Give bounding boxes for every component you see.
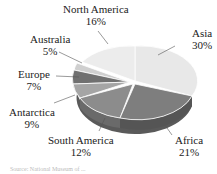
label-percent: 12% xyxy=(48,146,114,158)
label-percent: 16% xyxy=(63,15,129,27)
source-note: Source: National Museum of ... xyxy=(10,166,86,172)
label-percent: 9% xyxy=(9,118,55,130)
label-percent: 7% xyxy=(18,80,50,92)
label-percent: 21% xyxy=(175,146,203,158)
label-percent: 5% xyxy=(30,45,70,57)
label-north-america: North America 16% xyxy=(63,3,129,27)
label-australia: Australia 5% xyxy=(30,33,70,57)
label-south-america: South America 12% xyxy=(48,134,114,158)
label-name: Asia xyxy=(192,27,212,39)
label-name: Antarctica xyxy=(9,106,55,118)
label-name: South America xyxy=(48,134,114,146)
label-antarctica: Antarctica 9% xyxy=(9,106,55,130)
label-name: Australia xyxy=(30,33,70,45)
label-europe: Europe 7% xyxy=(18,68,50,92)
label-name: Africa xyxy=(175,134,203,146)
label-asia: Asia 30% xyxy=(192,27,212,51)
label-name: Europe xyxy=(18,68,50,80)
label-africa: Africa 21% xyxy=(175,134,203,158)
label-percent: 30% xyxy=(192,39,212,51)
label-name: North America xyxy=(63,3,129,15)
